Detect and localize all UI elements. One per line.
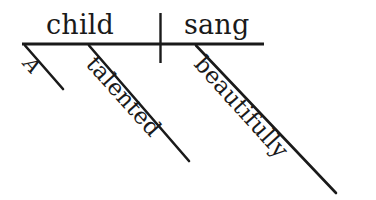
subject-word: child	[46, 11, 114, 38]
sentence-diagram: child sang A talented beautifully	[0, 0, 376, 200]
verb-word: sang	[184, 11, 249, 38]
